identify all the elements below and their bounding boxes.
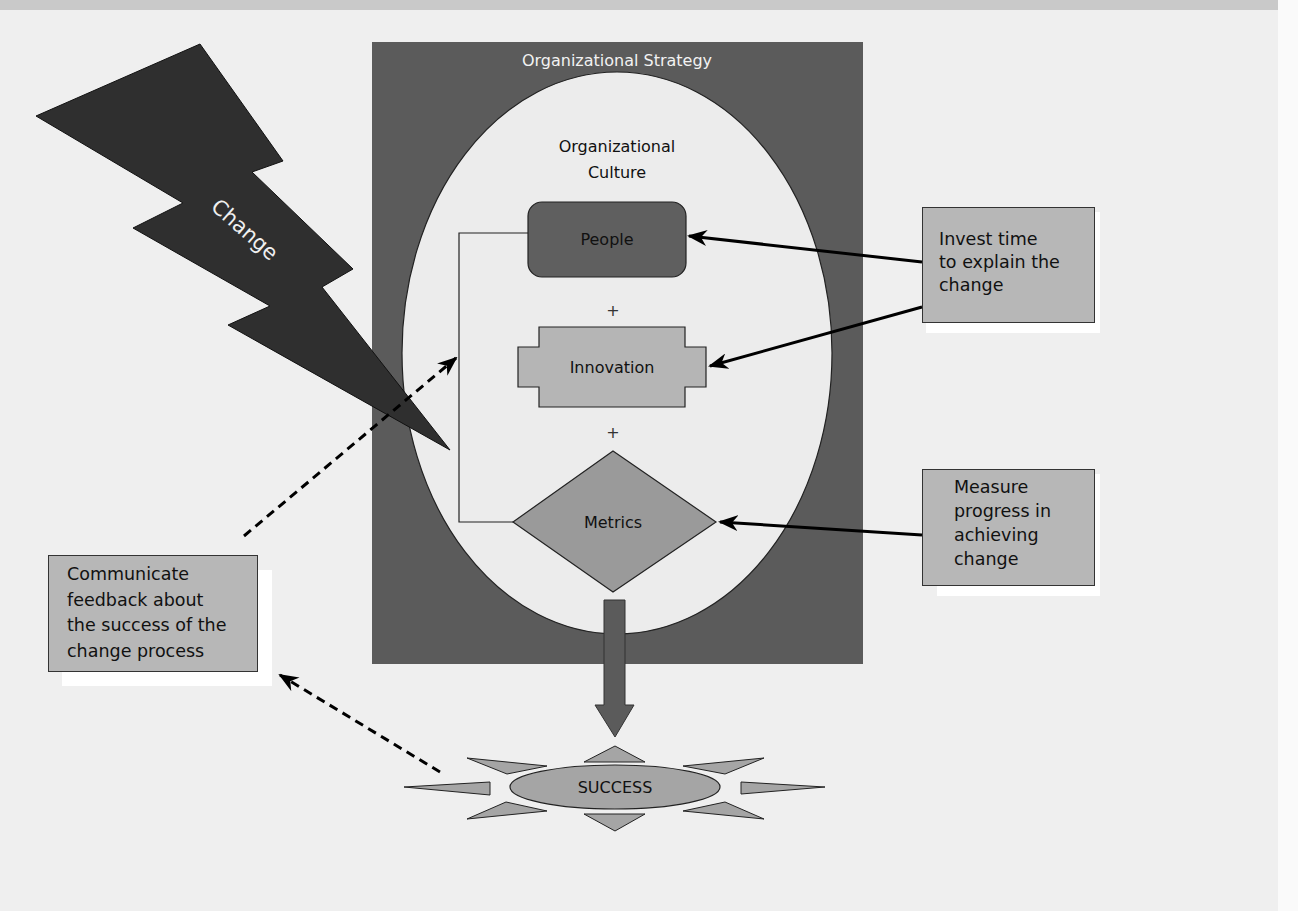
arrow-success-to-feedback — [280, 675, 440, 772]
people-label: People — [580, 230, 633, 249]
metrics-label: Metrics — [584, 513, 642, 532]
invest-callout-box: Invest time to explain the change — [922, 207, 1095, 323]
invest-callout-text: Invest time to explain the change — [939, 228, 1094, 297]
innovation-label: Innovation — [570, 358, 655, 377]
plus-sign-1: + — [606, 301, 619, 320]
communicate-callout-box: Communicate feedback about the success o… — [48, 555, 258, 672]
measure-callout-text: Measure progress in achieving change — [954, 475, 1094, 571]
success-label: SUCCESS — [578, 778, 653, 797]
measure-callout-box: Measure progress in achieving change — [922, 469, 1095, 586]
organizational-strategy-label: Organizational Strategy — [522, 51, 712, 70]
organizational-culture-label-line2: Culture — [588, 163, 646, 182]
communicate-callout-text: Communicate feedback about the success o… — [67, 562, 257, 664]
plus-sign-2: + — [606, 423, 619, 442]
organizational-culture-label-line1: Organizational — [559, 137, 676, 156]
diagram-canvas: Organizational Strategy Organizational C… — [0, 0, 1298, 911]
